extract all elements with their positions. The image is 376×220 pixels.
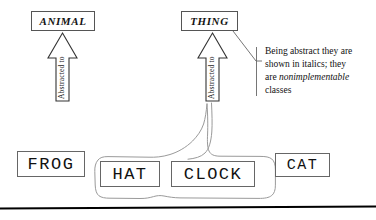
abstract-class-box-animal[interactable]: ANIMAL bbox=[31, 11, 95, 31]
bottom-rule bbox=[0, 207, 376, 209]
annotation-line-4: classes bbox=[265, 85, 291, 95]
abstract-class-label-animal: ANIMAL bbox=[40, 15, 87, 27]
annotation-line-3-prefix: are bbox=[265, 72, 279, 82]
annotation-emphasis-nonimplementable: nonimplementable bbox=[279, 72, 349, 82]
annotation-line-2: shown in italics; they bbox=[265, 59, 346, 69]
annotation-line-1: Being abstract they are bbox=[265, 46, 352, 56]
abstract-class-label-thing: THING bbox=[190, 15, 228, 27]
thing-arrow-label: Abstracted to bbox=[207, 56, 216, 99]
bottom-rule-line bbox=[0, 207, 376, 209]
concrete-class-box-clock[interactable]: CLOCK bbox=[171, 161, 255, 187]
concrete-class-box-hat[interactable]: HAT bbox=[100, 161, 160, 187]
diagram-vector-layer bbox=[0, 0, 376, 220]
annotation-leader-line bbox=[233, 31, 256, 61]
animal-arrow-label: Abstracted to bbox=[57, 56, 66, 99]
concrete-class-label-clock: CLOCK bbox=[184, 165, 243, 184]
abstract-class-box-thing[interactable]: THING bbox=[181, 11, 238, 31]
concrete-class-label-hat: HAT bbox=[112, 165, 147, 184]
concrete-class-label-cat: CAT bbox=[287, 157, 319, 174]
annotation-leader bbox=[233, 31, 262, 96]
concrete-class-label-frog: FROG bbox=[28, 155, 75, 174]
concrete-class-box-cat[interactable]: CAT bbox=[275, 153, 330, 177]
concrete-class-box-frog[interactable]: FROG bbox=[17, 151, 85, 177]
diagram-canvas: ANIMAL THING Abstracted to Abstracted to… bbox=[0, 0, 376, 220]
annotation-note: Being abstract they are shown in italics… bbox=[265, 45, 373, 97]
